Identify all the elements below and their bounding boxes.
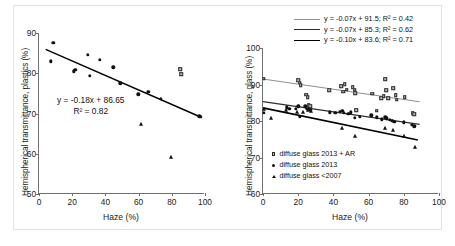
r2-text-left: R² = 0.82 bbox=[57, 106, 125, 117]
data-point-triangle bbox=[169, 154, 173, 158]
legend-line-swatch bbox=[294, 29, 320, 30]
data-point-triangle bbox=[340, 125, 344, 129]
series-legend-item: diffuse glass 2013 + AR bbox=[271, 148, 355, 159]
series-legend-item: diffuse glass 2013 bbox=[271, 159, 355, 170]
data-point-triangle bbox=[402, 134, 406, 138]
x-tick-mark bbox=[139, 193, 140, 196]
x-tick-label: 60 bbox=[134, 197, 143, 207]
data-point-triangle bbox=[309, 109, 313, 113]
x-tick-mark bbox=[298, 193, 299, 196]
x-tick-mark bbox=[333, 193, 334, 196]
legend-line-swatch bbox=[294, 19, 320, 20]
x-tick-label: 60 bbox=[364, 197, 373, 207]
x-tick-label: 80 bbox=[399, 197, 408, 207]
data-point-triangle bbox=[269, 116, 273, 120]
y-tick-mark bbox=[36, 33, 39, 34]
equation-legend-label: y = -0.10x + 83.6; R² = 0.71 bbox=[324, 35, 413, 46]
panel-glass: Hemispherical transmittance, glass (%) y… bbox=[228, 0, 455, 246]
equation-legend-label: y = -0.07x + 91.5; R² = 0.42 bbox=[324, 14, 413, 25]
x-tick-label: 0 bbox=[261, 197, 266, 207]
y-tick-mark bbox=[36, 73, 39, 74]
data-point-triangle bbox=[262, 106, 266, 110]
data-point-triangle bbox=[301, 110, 305, 114]
x-tick-mark bbox=[205, 193, 206, 196]
y-tick-mark bbox=[36, 154, 39, 155]
legend-marker-circle bbox=[271, 159, 276, 170]
y-tick-mark bbox=[260, 48, 263, 49]
y-tick-label: 80 bbox=[251, 116, 260, 126]
equation-legend-item: y = -0.10x + 83.6; R² = 0.71 bbox=[294, 35, 413, 46]
data-point-triangle bbox=[413, 144, 417, 148]
x-tick-mark bbox=[263, 193, 264, 196]
x-tick-mark bbox=[369, 193, 370, 196]
equation-legend: y = -0.07x + 91.5; R² = 0.42y = -0.07x +… bbox=[294, 14, 413, 46]
y-tick-mark bbox=[260, 158, 263, 159]
series-legend: diffuse glass 2013 + ARdiffuse glass 201… bbox=[271, 148, 355, 181]
series-legend-label: diffuse glass 2013 + AR bbox=[280, 148, 356, 159]
x-tick-mark bbox=[404, 193, 405, 196]
y-tick-mark bbox=[260, 121, 263, 122]
y-tick-label: 70 bbox=[27, 109, 36, 119]
x-tick-mark bbox=[439, 193, 440, 196]
data-point-square bbox=[299, 83, 303, 87]
x-tick-mark bbox=[39, 193, 40, 196]
y-tick-mark bbox=[260, 85, 263, 86]
marker-glyph bbox=[272, 152, 275, 155]
data-point-square bbox=[375, 109, 379, 113]
regression-annotation-left: y = -0.18x + 86.65 R² = 0.82 bbox=[57, 95, 125, 116]
data-point-triangle bbox=[295, 109, 299, 113]
legend-marker-square bbox=[271, 148, 276, 159]
data-point-square bbox=[384, 77, 388, 81]
data-point-square bbox=[178, 67, 182, 71]
data-point-square bbox=[354, 108, 358, 112]
equation-legend-label: y = -0.07x + 85.3; R² = 0.62 bbox=[324, 25, 413, 36]
legend-marker-triangle bbox=[271, 170, 276, 181]
x-tick-label: 20 bbox=[294, 197, 303, 207]
data-point-square bbox=[180, 73, 184, 77]
panel-plastics: Hemispherical transmittance, plastics (%… bbox=[0, 0, 228, 246]
series-legend-item: diffuse glass <2007 bbox=[271, 170, 355, 181]
data-point-square bbox=[262, 77, 266, 81]
y-tick-label: 80 bbox=[27, 68, 36, 78]
data-point-square bbox=[343, 82, 347, 86]
x-tick-label: 80 bbox=[167, 197, 176, 207]
plot-area-right: diffuse glass 2013 + ARdiffuse glass 201… bbox=[262, 48, 438, 194]
x-tick-mark bbox=[172, 193, 173, 196]
data-point-triangle bbox=[391, 128, 395, 132]
figure-root: Hemispherical transmittance, plastics (%… bbox=[0, 0, 455, 246]
y-tick-label: 60 bbox=[251, 189, 260, 199]
data-point-triangle bbox=[383, 126, 387, 130]
equation-legend-item: y = -0.07x + 91.5; R² = 0.42 bbox=[294, 14, 413, 25]
data-point-square bbox=[384, 88, 388, 92]
data-point-square bbox=[370, 92, 374, 96]
y-tick-label: 90 bbox=[27, 28, 36, 38]
data-point-square bbox=[345, 88, 349, 92]
plot-area-left: y = -0.18x + 86.65 R² = 0.82 50607080900… bbox=[38, 33, 204, 194]
data-point-square bbox=[354, 91, 358, 95]
equation-legend-item: y = -0.07x + 85.3; R² = 0.62 bbox=[294, 25, 413, 36]
x-tick-label: 20 bbox=[68, 197, 77, 207]
series-legend-label: diffuse glass 2013 bbox=[280, 159, 338, 170]
x-axis-label-left: Haze (%) bbox=[38, 212, 204, 222]
series-legend-label: diffuse glass <2007 bbox=[280, 170, 342, 181]
y-tick-label: 70 bbox=[251, 153, 260, 163]
x-tick-mark bbox=[105, 193, 106, 196]
data-point-square bbox=[391, 86, 395, 90]
x-tick-label: 100 bbox=[198, 197, 212, 207]
x-tick-label: 100 bbox=[432, 197, 446, 207]
legend-line-swatch bbox=[294, 40, 320, 41]
x-tick-label: 40 bbox=[101, 197, 110, 207]
marker-glyph bbox=[272, 175, 276, 178]
data-point-square bbox=[306, 95, 310, 99]
x-tick-label: 40 bbox=[329, 197, 338, 207]
data-point-triangle bbox=[353, 134, 357, 138]
data-point-square bbox=[413, 113, 417, 117]
equation-text-left: y = -0.18x + 86.65 bbox=[57, 95, 125, 106]
data-point-square bbox=[386, 96, 390, 100]
x-axis-label-right: Haze (%) bbox=[262, 212, 438, 222]
data-point-square bbox=[403, 95, 407, 99]
data-point-square bbox=[327, 88, 331, 92]
x-tick-label: 0 bbox=[37, 197, 42, 207]
x-tick-mark bbox=[72, 193, 73, 196]
data-point-square bbox=[394, 94, 398, 98]
